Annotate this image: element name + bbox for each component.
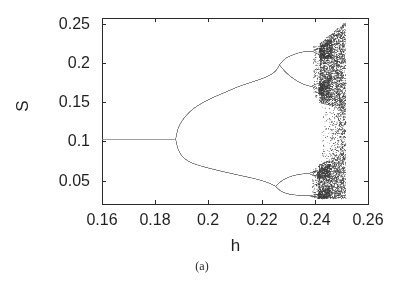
figure-caption: (a) [186, 260, 218, 273]
x-tick-label: 0.22 [236, 212, 288, 228]
y-axis-label: S [14, 96, 34, 116]
bifurcation-figure: S h (a) 0.050.10.150.20.250.160.180.20.2… [0, 0, 411, 297]
y-tick-label: 0.2 [38, 55, 90, 71]
x-tick-label: 0.26 [342, 212, 394, 228]
x-tick-label: 0.16 [76, 212, 128, 228]
x-tick-label: 0.24 [289, 212, 341, 228]
y-tick-label: 0.15 [38, 94, 90, 110]
x-axis-label: h [225, 237, 246, 254]
y-tick-label: 0.25 [38, 16, 90, 32]
y-tick-label: 0.05 [38, 173, 90, 189]
x-tick-label: 0.18 [129, 212, 181, 228]
y-tick-label: 0.1 [38, 133, 90, 149]
x-tick-label: 0.2 [182, 212, 234, 228]
